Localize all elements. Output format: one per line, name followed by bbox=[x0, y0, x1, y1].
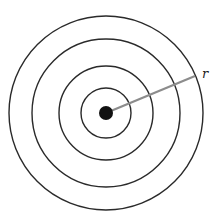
center-dot bbox=[99, 106, 113, 120]
radius-label: r bbox=[202, 66, 209, 81]
concentric-circles-diagram: r bbox=[0, 0, 217, 219]
radius-line bbox=[106, 76, 195, 113]
